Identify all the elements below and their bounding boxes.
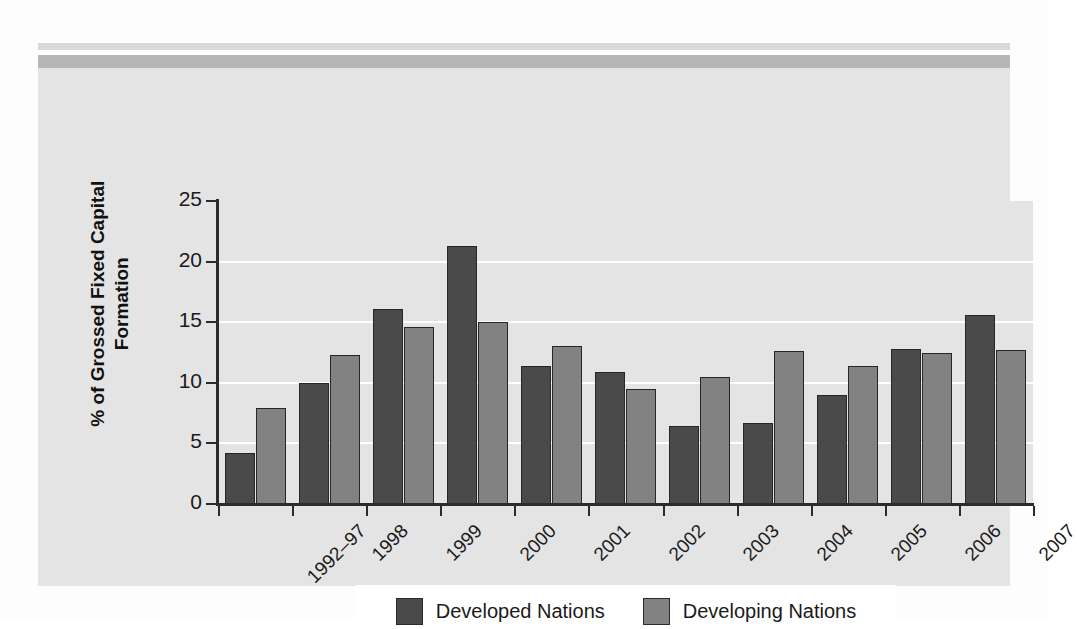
header-band-thick <box>38 55 1010 68</box>
y-axis-title: % of Grossed Fixed Capital Formation <box>86 144 134 464</box>
bar-199297-developed <box>225 453 255 504</box>
legend-swatch-developed <box>396 598 423 625</box>
bar-2006-developed <box>891 349 921 504</box>
header-band-thin <box>38 43 1010 50</box>
y-tick-5 <box>206 442 216 444</box>
x-tick-label-199297: 1992–97 <box>303 520 371 588</box>
y-tick-label-25: 25 <box>142 187 202 211</box>
bar-2005-developed <box>817 395 847 504</box>
x-tick-label-2005: 2005 <box>886 520 931 565</box>
y-tick-10 <box>206 382 216 384</box>
y-tick-0 <box>206 503 216 505</box>
x-tick-label-1998: 1998 <box>368 520 413 565</box>
x-tick-3 <box>440 506 442 516</box>
x-tick-5 <box>588 506 590 516</box>
x-tick-1 <box>292 506 294 516</box>
y-tick-25 <box>206 200 216 202</box>
bar-2000-developing <box>478 322 508 504</box>
plot-area <box>218 201 1033 504</box>
x-tick-0 <box>218 506 220 516</box>
bar-199297-developing <box>256 408 286 504</box>
bar-2001-developed <box>521 366 551 504</box>
x-tick-label-2004: 2004 <box>812 520 857 565</box>
x-tick-2 <box>366 506 368 516</box>
x-tick-label-2000: 2000 <box>516 520 561 565</box>
x-tick-label-2006: 2006 <box>960 520 1005 565</box>
y-tick-label-0: 0 <box>142 490 202 514</box>
bar-2004-developed <box>743 423 773 504</box>
y-tick-20 <box>206 261 216 263</box>
bar-2002-developing <box>626 389 656 504</box>
legend-swatch-developing <box>643 598 670 625</box>
bar-2001-developing <box>552 346 582 504</box>
x-tick-11 <box>1033 506 1035 516</box>
x-tick-9 <box>885 506 887 516</box>
x-axis-line <box>216 503 1034 506</box>
bar-2003-developed <box>669 426 699 504</box>
x-tick-8 <box>811 506 813 516</box>
legend-label-developing: Developing Nations <box>683 600 856 623</box>
x-tick-label-2003: 2003 <box>738 520 783 565</box>
y-axis-title-line2: Formation <box>110 144 134 464</box>
y-tick-label-15: 15 <box>142 308 202 332</box>
x-tick-label-1999: 1999 <box>442 520 487 565</box>
x-tick-7 <box>737 506 739 516</box>
bar-2005-developing <box>848 366 878 504</box>
chart-panel: % of Grossed Fixed Capital Formation 051… <box>38 68 1010 586</box>
bar-2000-developed <box>447 246 477 504</box>
bar-1999-developed <box>373 309 403 504</box>
x-tick-6 <box>663 506 665 516</box>
bar-2004-developing <box>774 351 804 504</box>
chart-legend: Developed Nations Developing Nations <box>356 585 896 629</box>
x-tick-label-2001: 2001 <box>590 520 635 565</box>
y-axis-line <box>216 199 219 506</box>
y-tick-label-20: 20 <box>142 248 202 272</box>
x-tick-label-2002: 2002 <box>664 520 709 565</box>
legend-label-developed: Developed Nations <box>436 600 605 623</box>
bar-2007-developed <box>965 315 995 504</box>
x-tick-label-2007: 2007 <box>1034 520 1077 565</box>
y-axis-title-line1: % of Grossed Fixed Capital <box>86 144 110 464</box>
bar-2007-developing <box>996 350 1026 504</box>
bar-2003-developing <box>700 377 730 504</box>
y-tick-label-10: 10 <box>142 369 202 393</box>
bar-2002-developed <box>595 372 625 504</box>
legend-item-developing[interactable]: Developing Nations <box>643 598 856 625</box>
bar-1998-developing <box>330 355 360 504</box>
y-tick-label-5: 5 <box>142 429 202 453</box>
x-tick-4 <box>514 506 516 516</box>
x-tick-10 <box>959 506 961 516</box>
bar-1999-developing <box>404 327 434 504</box>
bar-2006-developing <box>922 353 952 505</box>
y-tick-15 <box>206 321 216 323</box>
bar-group <box>218 201 1033 504</box>
bar-1998-developed <box>299 383 329 504</box>
legend-item-developed[interactable]: Developed Nations <box>396 598 605 625</box>
